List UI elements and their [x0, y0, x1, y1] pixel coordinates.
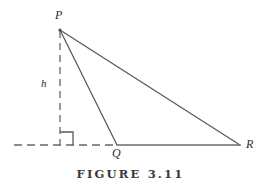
vertex-label-Q: Q	[112, 147, 121, 159]
vertex-point-P	[58, 28, 61, 31]
right-angle-marker-icon	[60, 132, 73, 145]
segment-PQ	[60, 30, 117, 145]
altitude-label-h: h	[41, 78, 47, 89]
triangle-diagram	[0, 0, 261, 189]
figure-caption: FIGURE 3.11	[0, 167, 261, 181]
figure-container: P Q R h FIGURE 3.11	[0, 0, 261, 189]
vertex-label-P: P	[55, 9, 62, 21]
segment-PR	[60, 30, 240, 145]
vertex-label-R: R	[246, 138, 253, 150]
